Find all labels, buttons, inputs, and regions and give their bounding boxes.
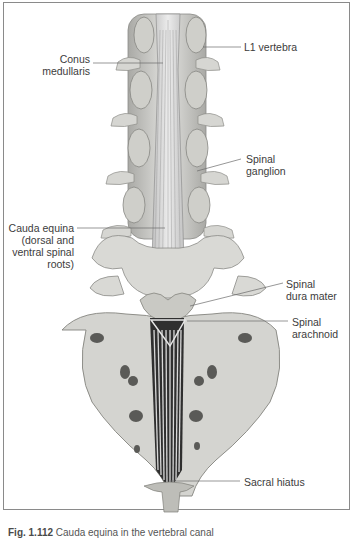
- label-line: Conus: [32, 53, 90, 65]
- label-line: Spinal: [246, 153, 286, 165]
- label-spinal-dura-mater: Spinal dura mater: [286, 278, 337, 302]
- label-spinal-ganglion: Spinal ganglion: [246, 153, 286, 177]
- figure-number: Fig. 1.112: [8, 527, 53, 538]
- label-line: arachnoid: [292, 328, 338, 340]
- label-line: dura mater: [286, 290, 337, 302]
- figure-caption: Fig. 1.112 Cauda equina in the vertebral…: [8, 527, 214, 538]
- label-cauda-equina: Cauda equina (dorsal and ventral spinal …: [8, 222, 74, 270]
- label-line: ventral spinal: [8, 246, 74, 258]
- label-line: (dorsal and: [8, 234, 74, 246]
- label-sacral-hiatus: Sacral hiatus: [244, 476, 305, 488]
- label-line: Cauda equina: [8, 222, 74, 234]
- label-conus-medullaris: Conus medullaris: [32, 53, 90, 77]
- label-line: ganglion: [246, 165, 286, 177]
- label-spinal-arachnoid: Spinal arachnoid: [292, 316, 338, 340]
- label-line: medullaris: [32, 65, 90, 77]
- label-line: roots): [8, 258, 74, 270]
- label-line: Spinal: [292, 316, 338, 328]
- label-line: Spinal: [286, 278, 337, 290]
- figure-caption-text: Cauda equina in the vertebral canal: [56, 527, 214, 538]
- label-l1-vertebra: L1 vertebra: [244, 41, 297, 53]
